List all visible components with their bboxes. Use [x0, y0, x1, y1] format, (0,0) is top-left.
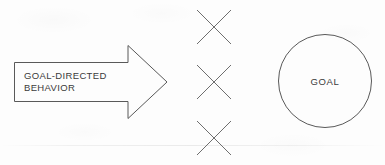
barrier-x-mark-2 [197, 65, 231, 99]
barrier-x-mark-1 [197, 10, 231, 44]
arrow-label-line-2: BEHAVIOR [24, 82, 75, 93]
goal-directed-behavior-diagram: GOAL-DIRECTED BEHAVIOR GOAL [0, 0, 385, 165]
barrier-x-mark-3 [197, 121, 231, 155]
arrow-label-line-1: GOAL-DIRECTED [24, 70, 107, 81]
diagram-canvas: GOAL-DIRECTED BEHAVIOR GOAL [0, 0, 385, 165]
goal-circle-label: GOAL [311, 76, 340, 87]
